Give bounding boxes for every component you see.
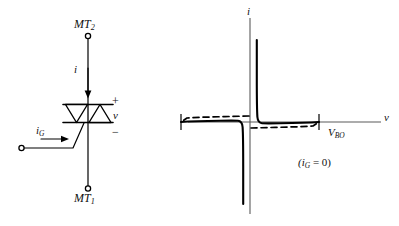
gate-lead [24, 123, 84, 148]
mt2-label: MT2 [74, 18, 95, 32]
curve-onstate-forward [257, 40, 319, 123]
triac-symbol-panel: MT2 MT1 i iG + v − [0, 0, 185, 226]
iv-characteristic-panel: i v VBO (iG = 0) [185, 0, 399, 226]
mt2-terminal-node [85, 33, 90, 38]
mt1-label: MT1 [74, 192, 95, 206]
gate-current-arrow [41, 136, 69, 142]
current-arrow-i [85, 68, 92, 99]
figure-root: MT2 MT1 i iG + v − [0, 0, 399, 226]
gate-terminal-node [19, 145, 24, 150]
curve-onstate-reverse [181, 121, 243, 204]
vbo-tick-label: VBO [328, 127, 345, 139]
iv-characteristic-chart [185, 0, 399, 226]
polarity-plus-label: + [112, 95, 119, 107]
current-label-i: i [74, 64, 77, 75]
y-axis-label-i: i [247, 6, 250, 17]
voltage-label-v: v [113, 110, 118, 121]
triac-triangle-right [89, 105, 111, 123]
triac-triangle-left [66, 105, 88, 123]
gate-current-zero-annotation: (iG = 0) [298, 157, 331, 169]
polarity-minus-label: − [112, 126, 119, 138]
x-axis-label-v: v [384, 112, 389, 123]
gate-current-label: iG [36, 125, 44, 137]
